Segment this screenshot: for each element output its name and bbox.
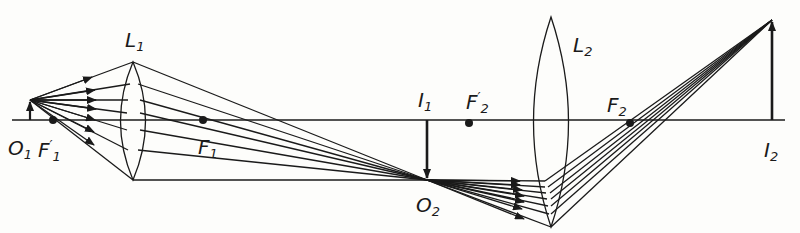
- label-o2: O2: [416, 195, 440, 218]
- label-f1: F1: [198, 137, 218, 160]
- label-l2: L2: [573, 35, 592, 58]
- focal-point-f1-prime: [49, 116, 57, 124]
- label-f2-prime: F′2: [466, 90, 489, 115]
- eyepiece-incoming-rays: [427, 180, 551, 227]
- focal-point-f2-prime: [465, 119, 473, 127]
- focal-point-f1: [199, 116, 207, 124]
- label-i2: I2: [764, 140, 778, 163]
- intermediate-rays: [133, 62, 427, 180]
- focal-point-f2: [626, 119, 634, 127]
- label-f1-prime: F′1: [38, 138, 61, 163]
- label-l1: L1: [125, 30, 144, 53]
- label-i1: I1: [418, 90, 432, 113]
- diagram-svg: [0, 0, 800, 233]
- ray-diagram: L1 L2 O1 F′1 F1 I1 F′2 F2 O2 I2: [0, 0, 800, 233]
- lens-l1: [121, 62, 146, 180]
- label-f2: F2: [607, 95, 627, 118]
- label-o1: O1: [8, 138, 32, 161]
